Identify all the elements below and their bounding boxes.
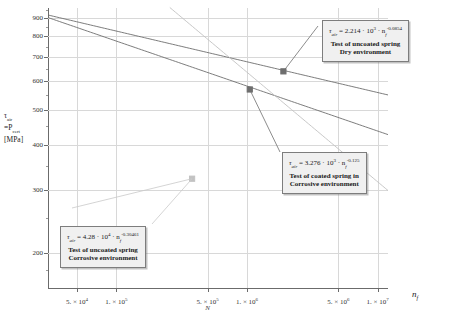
x-axis-tick (77, 288, 78, 292)
y-axis-title: τair =Pcert [MPa] (4, 112, 46, 145)
y-axis-minor-tick (46, 69, 48, 70)
gridline-horizontal (48, 110, 388, 111)
y-axis-tick-label: 600 (33, 78, 44, 85)
y-axis-minor-tick (46, 218, 48, 219)
y-axis-p-sub: cert (12, 129, 20, 134)
x-axis-title: nf (412, 289, 418, 301)
y-axis-tick (44, 36, 48, 37)
annotation-uncoated-corrosive[interactable]: τair = 4.28 · 104 · nf-0.30461 Test of u… (60, 226, 146, 268)
annotation-coated-corrosive[interactable]: τair = 3.276 · 103 · nf-0.125 Test of co… (282, 152, 367, 194)
y-axis-tick (44, 190, 48, 191)
x-axis-tick (247, 288, 248, 292)
x-axis-tick-label: 1. × 106 (236, 296, 258, 306)
y-axis-tick-label: 700 (33, 54, 44, 61)
x-axis-tick-label: 1. × 105 (105, 296, 127, 306)
y-axis-tau-sub: air (7, 117, 12, 122)
y-axis-tick (44, 145, 48, 146)
annotation-coated-line1: Test of coated spring in (289, 172, 360, 181)
x-axis-tick (378, 288, 379, 292)
y-axis-line (48, 8, 49, 288)
x-axis-tick-label: 5. × 104 (66, 296, 88, 306)
y-axis-minor-tick (46, 10, 48, 11)
annotation-dry-environment[interactable]: τair = 2.214 · 103 · nf-0.0854 Test of u… (322, 20, 409, 62)
x-axis-n-sub: f (417, 295, 419, 301)
x-axis-tick (338, 288, 339, 292)
chart-canvas: 5. × 1041. × 1055. × 1051. × 1065. × 106… (0, 0, 449, 319)
y-axis-minor-tick (46, 27, 48, 28)
y-axis-minor-tick (46, 270, 48, 271)
x-axis-line (48, 288, 388, 289)
y-axis-tick (44, 57, 48, 58)
annotation-dry-line1: Test of uncoated spring (329, 40, 402, 49)
annotation-uncoated-corr-line2: Corrosive environment (67, 254, 139, 263)
y-axis-unit: [MPa] (4, 136, 46, 145)
gridline-horizontal (48, 81, 388, 82)
x-axis-tick-label: 5. × 106 (327, 296, 349, 306)
annotation-coated-equation: τair = 3.276 · 103 · nf-0.125 (289, 156, 360, 171)
y-axis-tick-label: 800 (33, 33, 44, 40)
y-axis-tick (44, 253, 48, 254)
y-axis-minor-tick (46, 47, 48, 48)
annotation-uncoated-corr-line1: Test of uncoated spring (67, 246, 139, 255)
x-axis-cycles-marker: N (205, 304, 210, 312)
gridline-vertical (208, 8, 209, 288)
y-axis-tick (44, 110, 48, 111)
annotation-dry-equation: τair = 2.214 · 103 · nf-0.0854 (329, 24, 402, 39)
y-axis-minor-tick (46, 95, 48, 96)
x-axis-tick (208, 288, 209, 292)
gridline-horizontal (48, 145, 388, 146)
annotation-dry-line2: Dry environment (329, 48, 402, 57)
y-axis-minor-tick (46, 166, 48, 167)
x-axis-tick (116, 288, 117, 292)
gridline-vertical (247, 8, 248, 288)
y-axis-tick-label: 900 (33, 15, 44, 22)
y-axis-tick (44, 81, 48, 82)
y-axis-tick-label: 200 (33, 250, 44, 257)
y-axis-tick (44, 18, 48, 19)
gridline-horizontal (48, 18, 388, 19)
annotation-coated-line2: Corrosive environment (289, 180, 360, 189)
y-axis-minor-tick (46, 126, 48, 127)
annotation-uncoated-corr-equation: τair = 4.28 · 104 · nf-0.30461 (67, 230, 139, 245)
x-axis-tick-label: 1. × 107 (367, 296, 389, 306)
y-axis-tick-label: 300 (33, 186, 44, 193)
